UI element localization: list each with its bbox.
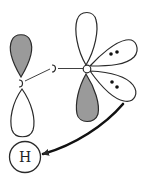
h-atom-label: H xyxy=(19,149,31,165)
c-left-atom-icon xyxy=(19,80,23,87)
lone-pair-electron xyxy=(115,85,119,89)
c-mid-atom-icon xyxy=(52,65,56,72)
lone-pair-electron xyxy=(109,52,113,56)
bond-c-left-c-mid xyxy=(25,69,50,81)
orbital-diagram: H xyxy=(0,0,145,179)
o-lower-lobe xyxy=(76,74,98,122)
c-left-upper-lobe xyxy=(10,35,31,77)
o-atom-icon xyxy=(83,65,91,73)
o-lone-pair-lobe-1 xyxy=(90,40,137,66)
o-upper-lobe xyxy=(76,13,97,66)
c-left-lower-lobe xyxy=(11,89,34,137)
lone-pair-electron xyxy=(110,80,114,84)
lone-pair-electron xyxy=(115,50,119,54)
